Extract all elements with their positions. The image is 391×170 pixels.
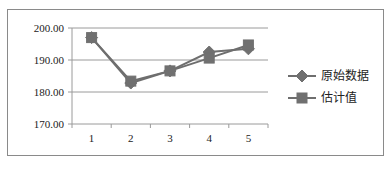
y-tick-label: 200.00: [34, 22, 65, 34]
line-chart: 170.00180.00190.00200.00 12345 原始数据估计值: [0, 0, 391, 170]
x-tick-label: 3: [167, 132, 173, 144]
square-marker: [243, 40, 253, 50]
square-marker: [297, 93, 307, 103]
square-marker: [204, 53, 214, 63]
legend-item: 估计值: [288, 90, 357, 105]
y-tick-label: 180.00: [34, 86, 65, 98]
x-tick-label: 1: [89, 132, 95, 144]
diamond-marker: [296, 70, 308, 82]
legend-label: 原始数据: [321, 68, 369, 83]
x-tick-label: 5: [246, 132, 252, 144]
x-tick-label: 4: [206, 132, 212, 144]
y-tick-label: 190.00: [34, 54, 65, 66]
square-marker: [126, 76, 136, 86]
legend-item: 原始数据: [288, 68, 369, 83]
legend-label: 估计值: [321, 90, 357, 105]
y-tick-label: 170.00: [34, 118, 65, 130]
square-marker: [87, 33, 97, 43]
y-axis-tick-labels: 170.00180.00190.00200.00: [34, 22, 65, 130]
x-axis: 12345: [72, 28, 268, 144]
legend: 原始数据估计值: [288, 68, 369, 105]
x-tick-label: 2: [128, 132, 134, 144]
square-marker: [165, 66, 175, 76]
